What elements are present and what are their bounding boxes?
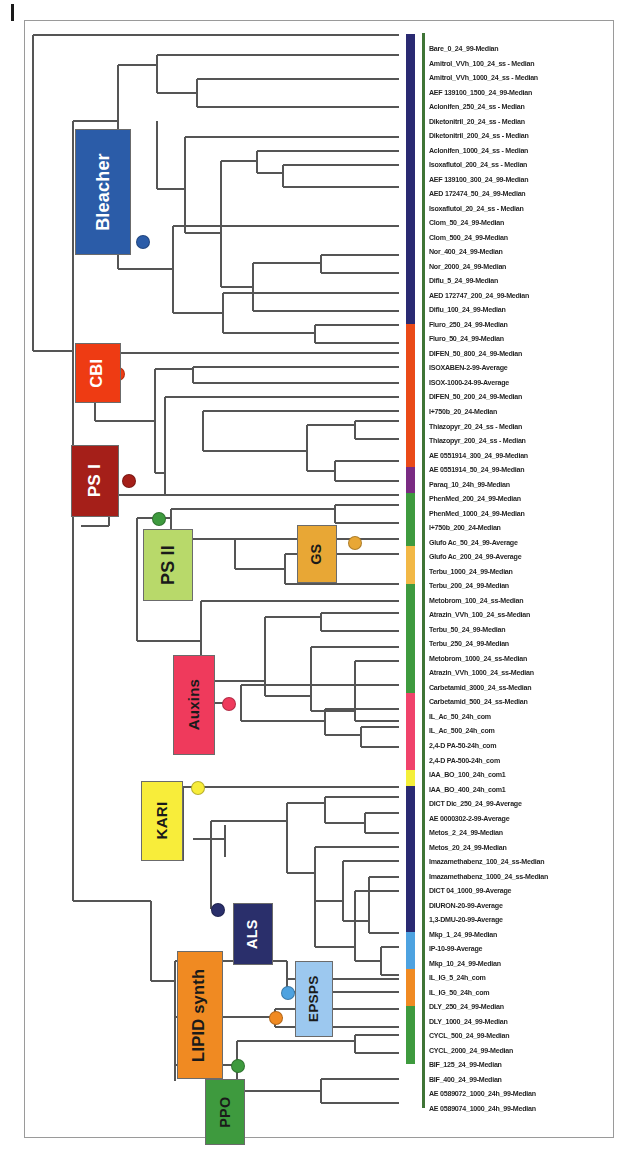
tip-label: Paraq_10_24h_99-Median (429, 481, 510, 489)
tip-label: DICT 04_1000_99-Average (429, 887, 511, 895)
group-box-bleacher[interactable]: Bleacher (75, 129, 131, 255)
tip-label: Imazamethabenz_1000_24_ss-Median (429, 873, 548, 881)
tip-label: Diketonitril_20_24_ss - Median (429, 118, 525, 126)
group-box-ppo[interactable]: PPO (205, 1079, 245, 1145)
tip-label: Carbetamid_3000_24_ss-Median (429, 684, 531, 692)
tip-label: Isoxaflutol_20_24_ss - Median (429, 205, 523, 213)
group-box-ps-ii[interactable]: PS II (143, 529, 193, 601)
tip-label: Imazamethabenz_100_24_ss-Median (429, 858, 544, 866)
tip-label: Carbetamid_500_24_ss-Median (429, 698, 528, 706)
tip-label: Aclonifen_1000_24_ss - Median (429, 147, 528, 155)
tip-label: Clom_50_24_99-Median (429, 219, 504, 227)
tip-label: Glufo Ac_50_24_99-Average (429, 539, 518, 547)
tip-label: I+750b_20_24-Median (429, 408, 497, 416)
mode-of-action-color-strip (406, 34, 415, 1064)
tip-label: Diflu_100_24_99-Median (429, 306, 506, 314)
epsps-node[interactable] (281, 986, 295, 1000)
tip-label: IL_IG_50_24h_com (429, 989, 489, 997)
tip-label: DIURON-20-99-Average (429, 902, 503, 910)
tip-label: Diflu_5_24_99-Median (429, 277, 498, 285)
strip-segment-psii-b (406, 584, 415, 693)
figure-canvas: BleacherCBIPS IPS IIGSAuxinsKARIALSLIPID… (0, 0, 638, 1160)
group-box-als[interactable]: ALS (233, 903, 273, 965)
tip-label: Aclonifen_250_24_ss - Median (429, 103, 525, 111)
strip-segment-lipid (406, 969, 415, 1006)
tip-label: AEF 139100_1500_24_99-Median (429, 89, 532, 97)
tip-label: Metobrom_1000_24_ss-Median (429, 655, 527, 663)
group-box-lipid-synth[interactable]: LIPID synth (177, 951, 223, 1079)
tip-label: IP-10-99-Average (429, 945, 482, 953)
group-box-label: ALS (246, 919, 260, 948)
kari-node[interactable] (191, 781, 205, 795)
tip-label: Mkp_1_24_99-Median (429, 931, 497, 939)
tip-label: Amitrol_VVh_100_24_ss - Median (429, 60, 534, 68)
tip-label: BIF_400_24_99-Median (429, 1076, 502, 1084)
strip-segment-kari (406, 770, 415, 785)
tip-label: PhenMed_1000_24_99-Median (429, 510, 524, 518)
strip-segment-psi (406, 467, 415, 494)
tip-label: Mkp_10_24_99-Median (429, 960, 501, 968)
tip-label: AED 172747_200_24_99-Median (429, 292, 529, 300)
group-box-label: GS (310, 543, 324, 564)
gs-node[interactable] (348, 536, 362, 550)
bleacher-node[interactable] (136, 235, 150, 249)
page-corner-mark (11, 4, 14, 21)
tip-label: CYCL_2000_24_99-Median (429, 1047, 513, 1055)
tip-label: BIF_125_24_99-Median (429, 1061, 502, 1069)
tip-label: IAA_BO_400_24h_com1 (429, 786, 505, 794)
strip-segment-als (406, 786, 415, 932)
strip-segment-epsps (406, 932, 415, 969)
auxins-node[interactable] (222, 697, 236, 711)
tip-label: Metos_20_24_99-Median (429, 844, 507, 852)
tip-label: ISOX-1000-24-99-Average (429, 379, 509, 387)
group-box-gs[interactable]: GS (297, 525, 337, 583)
lipid-node[interactable] (269, 1011, 283, 1025)
tip-label: AE 0589074_1000_24h_99-Median (429, 1105, 536, 1113)
tip-label: AE 0000302-2-99-Average (429, 815, 509, 823)
tip-label: AED 172474_50_24_99-Median (429, 190, 525, 198)
group-box-cbi[interactable]: CBI (75, 343, 121, 403)
group-box-auxins[interactable]: Auxins (173, 655, 215, 755)
group-box-kari[interactable]: KARI (141, 781, 183, 861)
group-box-label: Auxins (186, 679, 201, 731)
group-box-label: PS II (159, 545, 177, 585)
group-box-label: PPO (218, 1097, 232, 1128)
tip-label: I+750b_200_24-Median (429, 524, 501, 532)
tip-label: Diketonitril_200_24_ss - Median (429, 132, 529, 140)
group-box-label: PS I (86, 464, 103, 497)
tip-label: 2,4-D PA-50-24h_com (429, 742, 496, 750)
tip-label: Thiazopyr_20_24_ss - Median (429, 423, 522, 431)
tip-label: Clom_500_24_99-Median (429, 234, 508, 242)
tip-label: DIFEN_50_800_24_99-Median (429, 350, 522, 358)
strip-segment-gs (406, 546, 415, 584)
tip-label: Amitrol_VVh_1000_24_ss - Median (429, 74, 538, 82)
tip-label: Metobrom_100_24_ss-Median (429, 597, 523, 605)
group-box-ps-i[interactable]: PS I (71, 445, 119, 517)
strip-segment-ppo (406, 1006, 415, 1064)
tip-label: PhenMed_200_24_99-Median (429, 495, 521, 503)
strip-segment-bleacher (406, 34, 415, 324)
als-node[interactable] (211, 903, 225, 917)
tip-label: Fluro_250_24_99-Median (429, 321, 507, 329)
tip-label: Nor_400_24_99-Median (429, 248, 502, 256)
tip-label: DLY_1000_24_99-Median (429, 1018, 507, 1026)
strip-segment-auxins (406, 693, 415, 770)
ppo-node[interactable] (231, 1059, 245, 1073)
tip-label: AE 0551914_50_24_99-Median (429, 466, 524, 474)
tip-label: Terbu_250_24_99-Median (429, 640, 509, 648)
group-box-label: LIPID synth (192, 968, 209, 1061)
group-box-label: KARI (154, 802, 169, 840)
psii-node[interactable] (152, 512, 166, 526)
tip-label: Isoxaflutol_200_24_ss - Median (429, 161, 527, 169)
tip-label: Atrazin_VVh_1000_24_ss-Median (429, 669, 534, 677)
group-box-label: Bleacher (94, 153, 112, 231)
tip-label: Terbu_200_24_99-Median (429, 582, 509, 590)
tip-label: AE 0589072_1000_24h_99-Median (429, 1090, 536, 1098)
group-box-epsps[interactable]: EPSPS (295, 961, 333, 1037)
tip-label: AE 0551914_300_24_99-Median (429, 452, 528, 460)
group-box-label: CBI (90, 358, 107, 387)
tip-label: Bare_0_24_99-Median (429, 45, 498, 53)
psi-node[interactable] (122, 474, 136, 488)
tip-axis-line (422, 33, 425, 1108)
tip-label: DLY_250_24_99-Median (429, 1003, 504, 1011)
